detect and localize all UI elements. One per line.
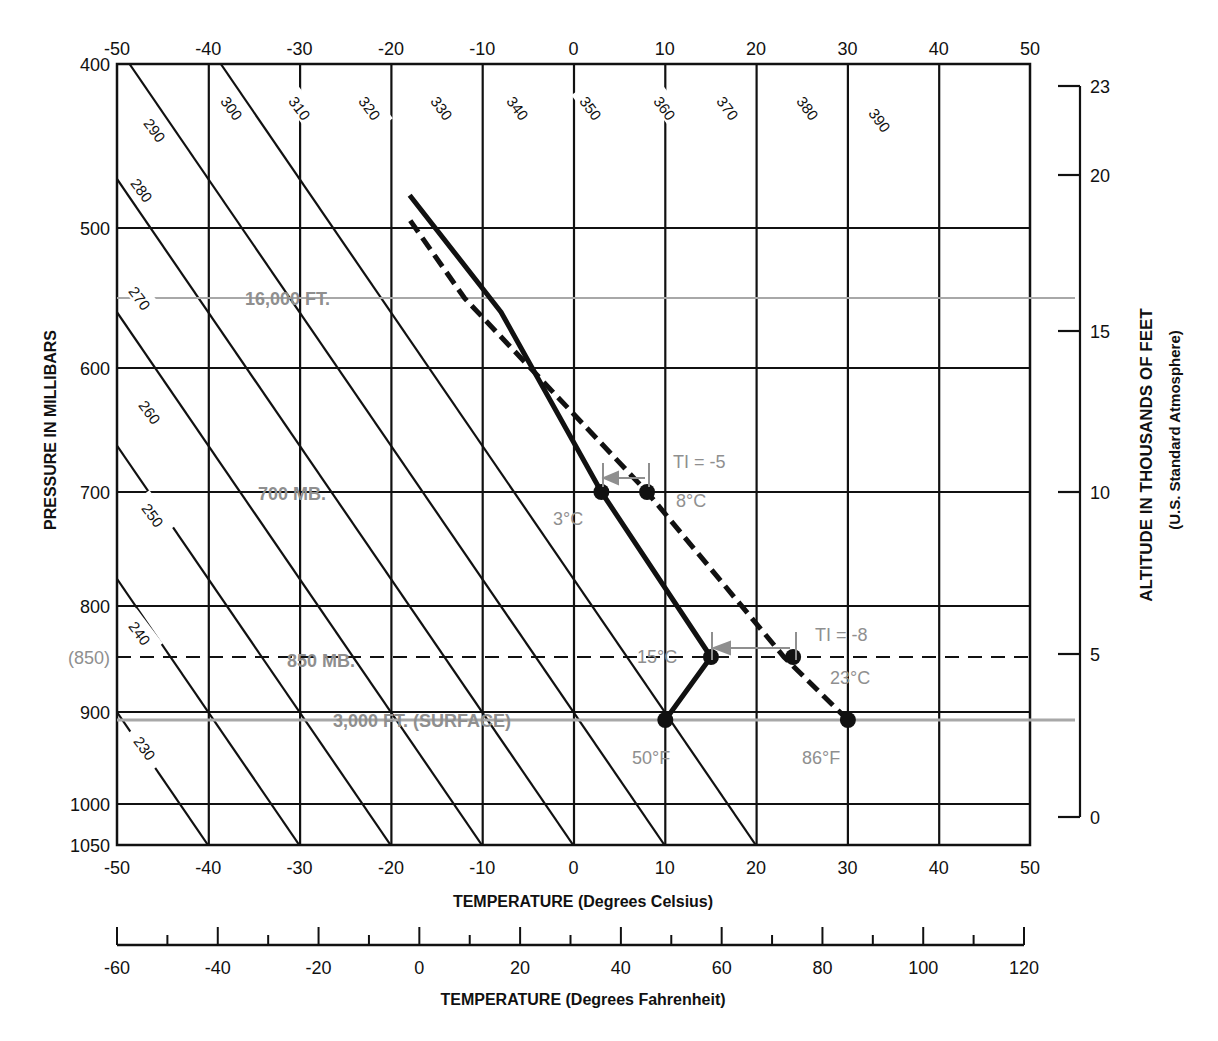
svg-text:10: 10 <box>655 858 675 878</box>
fahrenheit-scale: -60-40-20020406080100120 <box>104 927 1039 978</box>
svg-text:-20: -20 <box>378 39 404 59</box>
svg-text:1000: 1000 <box>70 795 110 815</box>
label-3c: 3°C <box>553 509 583 529</box>
svg-text:50: 50 <box>1020 858 1040 878</box>
svg-text:30: 30 <box>837 858 857 878</box>
label-50f: 50°F <box>632 748 670 768</box>
altitude-axis-title: ALTITUDE IN THOUSANDS OF FEET <box>1137 308 1156 602</box>
svg-text:60: 60 <box>712 958 732 978</box>
y-axis-title: PRESSURE IN MILLIBARS <box>42 330 59 530</box>
svg-text:-10: -10 <box>469 858 495 878</box>
svg-text:100: 100 <box>908 958 938 978</box>
svg-text:-40: -40 <box>195 858 221 878</box>
altitude-scale: 2320151050 <box>1058 77 1110 828</box>
svg-text:20: 20 <box>746 858 766 878</box>
svg-text:0: 0 <box>568 858 578 878</box>
svg-text:10: 10 <box>1090 483 1110 503</box>
svg-text:-30: -30 <box>287 858 313 878</box>
svg-text:0: 0 <box>1090 808 1100 828</box>
svg-text:500: 500 <box>80 219 110 239</box>
svg-text:15: 15 <box>1090 322 1110 342</box>
label-850mb: 850 MB. <box>287 651 355 671</box>
p850-label: (850) <box>68 648 110 668</box>
label-15c: 15°C <box>637 647 677 667</box>
svg-text:-20: -20 <box>378 858 404 878</box>
svg-text:40: 40 <box>929 858 949 878</box>
svg-text:700: 700 <box>80 483 110 503</box>
label-surface: 3,000 FT. (SURFACE) <box>333 711 511 731</box>
isotherm-lines <box>209 64 939 845</box>
svg-text:40: 40 <box>611 958 631 978</box>
svg-text:0: 0 <box>568 39 578 59</box>
svg-text:20: 20 <box>746 39 766 59</box>
svg-text:50: 50 <box>1020 39 1040 59</box>
label-86f: 86°F <box>802 748 840 768</box>
svg-text:120: 120 <box>1009 958 1039 978</box>
label-23c: 23°C <box>830 668 870 688</box>
dry-adiabat-labels: 2903003103203303403503603703803902802702… <box>120 83 902 770</box>
celsius-top-ticks: -50-40-30-20-1001020304050 <box>104 39 1040 59</box>
label-ti5: TI = -5 <box>673 452 726 472</box>
svg-text:-10: -10 <box>469 39 495 59</box>
svg-text:20: 20 <box>1090 166 1110 186</box>
svg-text:-40: -40 <box>205 958 231 978</box>
pressure-ticks: 40050060070080090010001050 <box>70 55 110 856</box>
svg-text:1050: 1050 <box>70 836 110 856</box>
svg-text:5: 5 <box>1090 645 1100 665</box>
svg-text:900: 900 <box>80 703 110 723</box>
fahrenheit-axis-title: TEMPERATURE (Degrees Fahrenheit) <box>440 991 725 1008</box>
label-ti8: TI = -8 <box>815 625 868 645</box>
dry-adiabat-parcel-line <box>410 220 848 720</box>
skew-t-chart: -50-40-30-20-1001020304050 -50-40-30-20-… <box>0 0 1218 1041</box>
svg-text:-20: -20 <box>306 958 332 978</box>
svg-text:80: 80 <box>812 958 832 978</box>
label-700mb: 700 MB. <box>258 484 326 504</box>
svg-text:-30: -30 <box>287 39 313 59</box>
x-axis-title: TEMPERATURE (Degrees Celsius) <box>453 893 713 910</box>
svg-text:20: 20 <box>510 958 530 978</box>
svg-text:10: 10 <box>655 39 675 59</box>
svg-text:0: 0 <box>414 958 424 978</box>
svg-text:800: 800 <box>80 597 110 617</box>
svg-text:-40: -40 <box>195 39 221 59</box>
altitude-axis-subtitle: (U.S. Standard Atmosphere) <box>1166 330 1183 529</box>
label-16000ft: 16,000 FT. <box>245 289 330 309</box>
svg-text:23: 23 <box>1090 77 1110 97</box>
label-8c: 8°C <box>676 491 706 511</box>
svg-text:30: 30 <box>837 39 857 59</box>
svg-text:400: 400 <box>80 55 110 75</box>
celsius-bottom-ticks: -50-40-30-20-1001020304050 <box>104 858 1040 878</box>
svg-text:600: 600 <box>80 359 110 379</box>
svg-text:-50: -50 <box>104 858 130 878</box>
svg-text:-60: -60 <box>104 958 130 978</box>
svg-text:40: 40 <box>929 39 949 59</box>
